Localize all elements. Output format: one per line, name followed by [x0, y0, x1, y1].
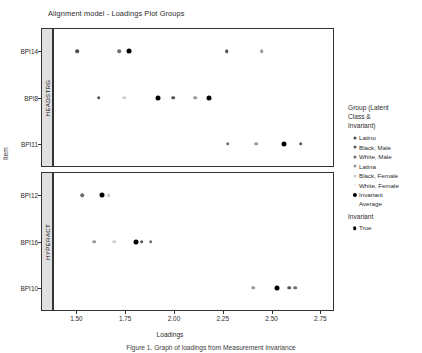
- data-point: [299, 142, 303, 146]
- legend-item-invariant-true[interactable]: True: [350, 223, 422, 233]
- legend-title-line3: Invariant): [348, 121, 422, 130]
- x-tick-mark: [272, 311, 273, 314]
- x-tick-mark: [174, 311, 175, 314]
- data-point: [194, 96, 198, 100]
- chart-root: Alignment model - Loadings Plot Groups I…: [0, 0, 422, 353]
- legend-item-invariant-average[interactable]: InvariantAverage: [350, 190, 422, 208]
- y-tick-mark: [38, 51, 41, 52]
- facet-strip-label: HYPERACT: [44, 223, 51, 259]
- x-tick-label: 2.75: [314, 315, 326, 322]
- data-point: [122, 96, 126, 100]
- legend-item-label: White, Female: [359, 181, 399, 190]
- facet-strip-hyperact: HYPERACT: [41, 172, 53, 311]
- legend-title-invariant: Invariant: [348, 212, 422, 221]
- x-tick-mark: [76, 311, 77, 314]
- data-point: [107, 193, 111, 197]
- legend-dot-icon: [350, 223, 359, 233]
- legend-dot-icon: [350, 181, 359, 191]
- data-point: [225, 49, 229, 53]
- legend-entries: LatinoBlack, MaleWhite, MaleLatinaBlack,…: [348, 133, 422, 208]
- data-point: [254, 142, 258, 146]
- legend-item-label: InvariantAverage: [359, 190, 383, 208]
- legend-item-label: White, Male: [359, 152, 392, 161]
- x-axis-title: Loadings: [0, 331, 340, 338]
- legend-item[interactable]: Latina: [350, 162, 422, 172]
- legend-dot-icon: [350, 171, 359, 181]
- legend-item-label-line2: Average: [359, 199, 383, 208]
- legend-entries-invariant: True: [348, 223, 422, 233]
- data-point: [226, 142, 230, 146]
- data-point: [76, 49, 80, 53]
- facet-strip-headstrg: HEADSTRG: [41, 28, 53, 167]
- data-point: [118, 49, 122, 53]
- data-point: [92, 240, 96, 244]
- data-point: [80, 193, 84, 197]
- data-point: [282, 141, 287, 146]
- legend-item[interactable]: White, Female: [350, 181, 422, 191]
- data-point: [140, 240, 144, 244]
- legend-dot-icon: [350, 133, 359, 143]
- y-tick-label: BPI12: [21, 192, 38, 199]
- data-point: [99, 193, 104, 198]
- legend-item-label: Black, Male: [359, 143, 391, 152]
- x-tick-label: 2.25: [217, 315, 229, 322]
- data-point: [156, 95, 161, 100]
- y-tick-label: BPI14: [21, 48, 38, 55]
- legend-dot-icon: [350, 143, 359, 153]
- x-tick-label: 1.75: [119, 315, 131, 322]
- legend-item-label: True: [359, 223, 372, 232]
- legend: Group (Latent Class & Invariant) LatinoB…: [348, 103, 422, 233]
- legend-item-label-line1: Invariant: [359, 190, 383, 199]
- data-point: [260, 49, 264, 53]
- data-point: [171, 96, 175, 100]
- data-point: [97, 96, 101, 100]
- legend-dot-icon: [350, 162, 359, 172]
- x-tick-label: 1.50: [70, 315, 82, 322]
- y-tick-mark: [38, 288, 41, 289]
- figure-caption: Figure 1. Graph of loadings from Measure…: [0, 344, 422, 353]
- x-tick-mark: [223, 311, 224, 314]
- data-point: [113, 240, 117, 244]
- y-axis-title: Item: [2, 147, 9, 160]
- legend-title-line1: Group (Latent: [348, 103, 422, 112]
- data-point: [133, 239, 138, 244]
- data-point: [287, 286, 291, 290]
- legend-item[interactable]: Black, Female: [350, 171, 422, 181]
- legend-item-label: Latina: [359, 162, 376, 171]
- legend-item[interactable]: White, Male: [350, 152, 422, 162]
- y-tick-mark: [38, 98, 41, 99]
- data-point: [275, 285, 280, 290]
- data-point: [293, 286, 297, 290]
- legend-dot-icon: [350, 190, 359, 200]
- data-point: [149, 240, 153, 244]
- x-tick-label: 2.50: [265, 315, 277, 322]
- legend-item-label: Latino: [359, 133, 376, 142]
- data-point: [251, 286, 255, 290]
- page-title: Alignment model - Loadings Plot Groups: [48, 9, 185, 18]
- y-tick-label: BPI10: [21, 284, 38, 291]
- y-tick-mark: [38, 195, 41, 196]
- y-tick-mark: [38, 242, 41, 243]
- y-tick-label: BPI16: [21, 238, 38, 245]
- legend-item[interactable]: Latino: [350, 133, 422, 143]
- legend-title-line2: Class &: [348, 112, 422, 121]
- y-tick-mark: [38, 144, 41, 145]
- x-tick-label: 2.00: [168, 315, 180, 322]
- y-tick-label: BPI8: [24, 94, 38, 101]
- data-point: [127, 49, 132, 54]
- facet-strip-label: HEADSTRG: [44, 79, 51, 116]
- y-tick-label: BPI11: [21, 140, 38, 147]
- legend-dot-icon: [350, 152, 359, 162]
- legend-item-label: Black, Female: [359, 171, 398, 180]
- data-point: [207, 95, 212, 100]
- legend-item[interactable]: Black, Male: [350, 143, 422, 153]
- x-tick-mark: [320, 311, 321, 314]
- x-tick-mark: [125, 311, 126, 314]
- legend-title: Group (Latent Class & Invariant): [348, 103, 422, 130]
